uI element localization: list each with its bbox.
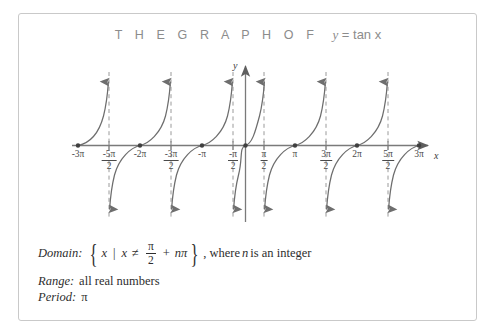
not-equal-sign: ≠ xyxy=(132,246,139,261)
fraction-denominator: 2 xyxy=(146,254,156,267)
tick-label-negpi-over-2: -π2 xyxy=(228,149,238,171)
zero-point xyxy=(355,143,359,147)
tick-label-3pi-over-2: 3π2 xyxy=(320,149,332,171)
tick-label-negpi: -π xyxy=(198,150,206,160)
x-axis-label: x xyxy=(434,150,438,161)
y-axis-label: y xyxy=(233,60,237,71)
range-label: Range: xyxy=(38,274,74,289)
figure-page: T H E G R A P H O Fy = tan x xyxy=(0,0,496,335)
domain-variable-1: x xyxy=(101,246,107,261)
tangent-branch xyxy=(78,82,108,146)
tick-label-neg3pi-over-2: -3π2 xyxy=(164,149,179,171)
domain-label: Domain: xyxy=(38,246,82,261)
n-pi-term: nπ xyxy=(175,246,188,261)
fraction: -π2 xyxy=(228,149,238,171)
right-brace: } xyxy=(191,244,199,264)
zero-point xyxy=(76,143,80,147)
tick-label-3pi: 3π xyxy=(414,150,424,160)
domain-line: Domain: { x | x ≠ π 2 + nπ } , where n i… xyxy=(38,240,458,267)
period-line: Period: π xyxy=(38,290,458,305)
fraction: π2 xyxy=(261,149,268,171)
plus-sign: + xyxy=(163,246,170,261)
left-brace: { xyxy=(90,244,98,264)
period-value: π xyxy=(81,290,87,305)
domain-tail-n: n xyxy=(242,246,248,261)
fraction-numerator: π xyxy=(146,240,156,254)
fraction: -5π2 xyxy=(102,149,117,171)
tick-label-2pi: 2π xyxy=(352,150,362,160)
domain-set-body: x | x ≠ π 2 + nπ xyxy=(101,240,187,267)
zero-point xyxy=(417,143,421,147)
fraction: 3π2 xyxy=(320,149,332,171)
range-line: Range: all real numbers xyxy=(38,274,458,289)
set-bar: | xyxy=(112,246,117,261)
domain-tail-pre: , where xyxy=(203,246,240,261)
period-label: Period: xyxy=(38,290,76,305)
zero-point xyxy=(138,143,142,147)
domain-variable-2: x xyxy=(122,246,128,261)
pi-over-two-fraction: π 2 xyxy=(146,240,156,267)
tick-label-5pi-over-2: 5π2 xyxy=(382,149,394,171)
zero-point xyxy=(293,143,297,147)
tick-label-neg5pi-over-2: -5π2 xyxy=(102,149,117,171)
properties-block: Domain: { x | x ≠ π 2 + nπ } , where n i… xyxy=(38,240,458,305)
domain-tail-post: is an integer xyxy=(250,246,311,261)
tick-label-pi-over-2: π2 xyxy=(261,149,268,171)
fraction: 5π2 xyxy=(382,149,394,171)
tick-label-neg2pi: -2π xyxy=(134,150,147,160)
tick-label-pi: π xyxy=(293,150,298,160)
fraction: -3π2 xyxy=(164,149,179,171)
zero-point xyxy=(243,143,247,147)
zero-point xyxy=(200,143,204,147)
range-value: all real numbers xyxy=(79,274,160,289)
tick-label-neg3pi: -3π xyxy=(72,150,85,160)
